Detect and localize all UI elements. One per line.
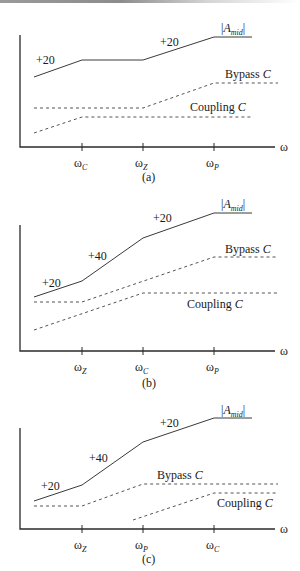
slope-annotation: +20 <box>41 479 60 493</box>
series-a-mid <box>34 37 252 77</box>
series-coupling-c <box>34 117 252 133</box>
curve-label: |Amid| <box>221 403 245 419</box>
slope-annotation: +20 <box>160 416 179 430</box>
x-axis-label: ω <box>280 344 288 358</box>
panel-caption: (c) <box>142 552 155 566</box>
x-tick-label: ωZ <box>74 360 87 376</box>
slope-annotation: +20 <box>36 53 55 67</box>
panel-b: ωωZωCωP+20+40+20|Amid|Bypass CCoupling C… <box>20 197 288 390</box>
x-tick-label: ωC <box>135 360 149 376</box>
panel-caption: (b) <box>142 376 156 390</box>
curve-label: Bypass C <box>157 468 204 482</box>
curve-label: Bypass C <box>225 242 272 256</box>
curve-label: Bypass C <box>225 67 272 81</box>
panel-a: ωωCωZωP+20+20|Amid|Bypass CCoupling C(a) <box>20 21 288 184</box>
curve-label: Coupling C <box>187 297 244 311</box>
curve-label: |Amid| <box>221 21 245 37</box>
slope-annotation: +40 <box>88 249 107 263</box>
slope-annotation: +20 <box>42 276 61 290</box>
x-tick-label: ωP <box>206 156 219 172</box>
panel-c: ωωZωPωC+20+40+20|Amid|Bypass CCoupling C… <box>20 403 288 566</box>
x-axis-label: ω <box>280 140 288 154</box>
x-tick-label: ωP <box>206 360 219 376</box>
x-axis-label: ω <box>280 522 288 536</box>
curve-label: Coupling C <box>217 496 274 510</box>
x-tick-label: ωZ <box>74 538 87 554</box>
bode-asymptote-diagram: ωωCωZωP+20+20|Amid|Bypass CCoupling C(a)… <box>0 0 300 571</box>
slope-annotation: +20 <box>153 211 172 225</box>
x-tick-label: ωC <box>206 538 220 554</box>
axes <box>20 35 275 147</box>
x-tick-label: ωC <box>74 156 88 172</box>
series-a-mid <box>34 418 252 501</box>
slope-annotation: +40 <box>89 451 108 465</box>
slope-annotation: +20 <box>160 35 179 49</box>
curve-label: |Amid| <box>221 197 245 213</box>
series-bypass-c <box>34 257 278 302</box>
panel-caption: (a) <box>142 170 155 184</box>
series-a-mid <box>34 213 252 297</box>
curve-label: Coupling C <box>190 100 247 114</box>
